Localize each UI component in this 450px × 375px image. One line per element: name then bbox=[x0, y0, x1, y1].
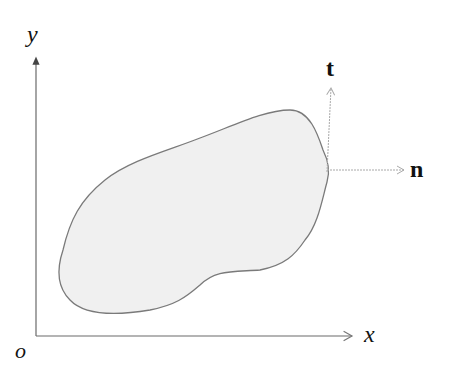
y-axis-label: y bbox=[27, 22, 38, 46]
normal-label: n bbox=[410, 157, 423, 181]
tangent-label: t bbox=[326, 56, 334, 80]
diagram-canvas: y x o t n bbox=[0, 0, 450, 375]
diagram-graphic bbox=[0, 0, 450, 375]
origin-label: o bbox=[15, 340, 26, 362]
x-axis-label: x bbox=[364, 322, 375, 346]
tangent-vector bbox=[327, 88, 331, 172]
region-shape bbox=[59, 110, 328, 313]
